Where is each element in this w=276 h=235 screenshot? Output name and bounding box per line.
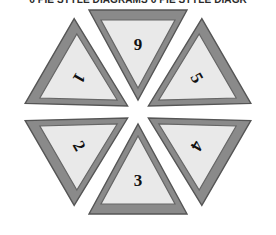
diagram-title: 6 PIE STYLE DIAGRAMS 6 PIE STYLE DIAGR [29, 0, 247, 5]
six-triangle-pie-wheel: 9 5 4 3 2 1 [0, 0, 276, 235]
diagram-canvas: 6 PIE STYLE DIAGRAMS 6 PIE STYLE DIAGR 9… [0, 0, 276, 235]
segment-top-inner [101, 20, 175, 88]
segment-bottom-label: 3 [134, 171, 143, 190]
diagram-title-strip: 6 PIE STYLE DIAGRAMS 6 PIE STYLE DIAGR [0, 0, 276, 7]
segment-top-label: 9 [134, 35, 143, 54]
